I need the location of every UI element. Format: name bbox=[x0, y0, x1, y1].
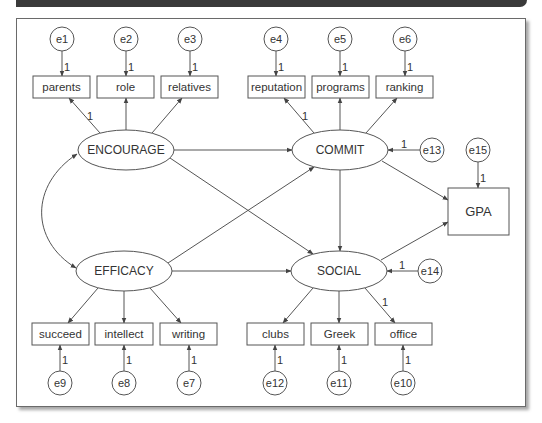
observed-label: Greek bbox=[324, 328, 356, 340]
path-arrow-social-to-clubs bbox=[283, 288, 313, 323]
covariance-arrow-encourage-efficacy bbox=[42, 154, 77, 268]
path-coefficient-label: 1 bbox=[405, 354, 411, 366]
error-term-e10: e10 bbox=[391, 371, 415, 395]
observed-variables: parentsrolerelativesreputationprogramsra… bbox=[32, 76, 509, 345]
error-label: e14 bbox=[421, 265, 439, 277]
error-term-e11: e11 bbox=[327, 371, 351, 395]
observed-label: succeed bbox=[39, 328, 82, 340]
path-coefficient-label: 1 bbox=[382, 296, 388, 308]
error-term-e5: e5 bbox=[328, 27, 352, 51]
path-coefficient-label: 1 bbox=[407, 61, 413, 73]
path-coefficient-label: 1 bbox=[87, 110, 93, 122]
error-term-e2: e2 bbox=[114, 27, 138, 51]
path-coefficient-label: 1 bbox=[342, 61, 348, 73]
error-term-e15: e15 bbox=[466, 138, 490, 162]
path-coefficient-label: 1 bbox=[341, 354, 347, 366]
error-label: e13 bbox=[423, 144, 441, 156]
observed-label: programs bbox=[316, 81, 365, 93]
error-label: e15 bbox=[469, 144, 487, 156]
latent-variable-social: SOCIAL bbox=[291, 251, 387, 291]
latent-label: EFFICACY bbox=[94, 264, 153, 278]
error-term-e6: e6 bbox=[393, 27, 417, 51]
error-term-e4: e4 bbox=[264, 27, 288, 51]
latent-label: ENCOURAGE bbox=[87, 143, 164, 157]
latent-label: COMMIT bbox=[316, 143, 365, 157]
path-arrow-encourage-to-social bbox=[170, 158, 313, 254]
path-arrow-encourage-to-relatives bbox=[152, 98, 182, 133]
observed-variable-ranking: ranking bbox=[376, 76, 433, 98]
sem-path-diagram: parentsrolerelativesreputationprogramsra… bbox=[0, 0, 542, 423]
observed-variable-clubs: clubs bbox=[247, 323, 304, 345]
error-label: e7 bbox=[183, 377, 195, 389]
path-coefficient-label: 1 bbox=[302, 110, 308, 122]
observed-variable-greek: Greek bbox=[311, 323, 368, 345]
path-coefficient-label: 1 bbox=[278, 61, 284, 73]
observed-label: ranking bbox=[386, 81, 424, 93]
error-label: e2 bbox=[120, 33, 132, 45]
path-arrow-commit-to-reputation bbox=[284, 98, 314, 133]
path-arrow-efficacy-to-writing bbox=[150, 288, 181, 323]
path-coefficient-label: 1 bbox=[126, 354, 132, 366]
path-coefficient-label: 1 bbox=[64, 61, 70, 73]
path-coefficient-label: 1 bbox=[480, 172, 486, 184]
observed-variable-office: office bbox=[375, 323, 432, 345]
error-label: e4 bbox=[270, 33, 282, 45]
error-label: e10 bbox=[394, 377, 412, 389]
error-term-e9: e9 bbox=[48, 371, 72, 395]
observed-label: relatives bbox=[168, 81, 211, 93]
observed-variable-intellect: intellect bbox=[95, 323, 153, 345]
error-term-e8: e8 bbox=[112, 371, 136, 395]
path-coefficient-label: 1 bbox=[62, 354, 68, 366]
error-term-e3: e3 bbox=[178, 27, 202, 51]
path-coefficient-label: 1 bbox=[128, 61, 134, 73]
path-arrow-social-to-gpa bbox=[381, 222, 448, 260]
observed-label: writing bbox=[171, 328, 205, 340]
observed-label: GPA bbox=[465, 204, 492, 219]
observed-variable-role: role bbox=[97, 76, 154, 98]
path-coefficient-label: 1 bbox=[277, 354, 283, 366]
path-arrow-commit-to-ranking bbox=[366, 98, 397, 133]
path-arrow-social-to-office bbox=[365, 288, 395, 323]
path-coefficient-label: 1 bbox=[401, 138, 407, 150]
path-coefficient-label: 1 bbox=[399, 259, 405, 271]
observed-variable-reputation: reputation bbox=[248, 76, 305, 98]
observed-variable-gpa: GPA bbox=[448, 188, 509, 235]
covariance-arrows bbox=[42, 154, 77, 268]
observed-label: clubs bbox=[262, 328, 289, 340]
latent-variable-commit: COMMIT bbox=[292, 130, 388, 170]
error-label: e9 bbox=[54, 377, 66, 389]
observed-variable-relatives: relatives bbox=[161, 76, 218, 98]
path-arrow-efficacy-to-succeed bbox=[68, 288, 98, 323]
error-label: e1 bbox=[56, 33, 68, 45]
observed-label: office bbox=[390, 328, 417, 340]
observed-variable-succeed: succeed bbox=[32, 323, 89, 345]
error-term-e12: e12 bbox=[263, 371, 287, 395]
latent-variable-encourage: ENCOURAGE bbox=[78, 130, 174, 170]
error-term-e7: e7 bbox=[177, 371, 201, 395]
error-term-e1: e1 bbox=[50, 27, 74, 51]
error-label: e6 bbox=[399, 33, 411, 45]
latent-variable-efficacy: EFFICACY bbox=[76, 251, 172, 291]
path-arrow-efficacy-to-commit bbox=[168, 167, 314, 263]
latent-variables: ENCOURAGECOMMITEFFICACYSOCIAL bbox=[76, 130, 388, 291]
error-label: e12 bbox=[266, 377, 284, 389]
observed-variable-programs: programs bbox=[312, 76, 369, 98]
path-coefficient-label: 1 bbox=[191, 354, 197, 366]
observed-label: reputation bbox=[251, 81, 302, 93]
observed-label: parents bbox=[42, 81, 81, 93]
observed-variable-parents: parents bbox=[33, 76, 90, 98]
observed-variable-writing: writing bbox=[160, 323, 217, 345]
error-label: e11 bbox=[330, 377, 348, 389]
path-arrow-commit-to-gpa bbox=[382, 161, 448, 200]
error-term-e14: e14 bbox=[418, 259, 442, 283]
path-coefficient-label: 1 bbox=[192, 61, 198, 73]
error-term-e13: e13 bbox=[420, 138, 444, 162]
observed-label: role bbox=[116, 81, 135, 93]
observed-label: intellect bbox=[105, 328, 145, 340]
path-arrow-encourage-to-parents bbox=[69, 98, 100, 133]
latent-label: SOCIAL bbox=[317, 264, 361, 278]
error-label: e5 bbox=[334, 33, 346, 45]
error-label: e3 bbox=[184, 33, 196, 45]
error-label: e8 bbox=[118, 377, 130, 389]
